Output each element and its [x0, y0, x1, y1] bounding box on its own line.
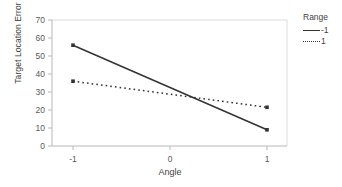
chart-container: Target Location Error 70 60 50 40 30 20 …	[0, 0, 342, 187]
legend-swatch-solid-line-icon	[303, 26, 320, 35]
legend: Range -1 1	[303, 12, 342, 47]
legend-title: Range	[303, 12, 342, 22]
plot-area	[0, 0, 342, 187]
series-line-dotted	[73, 81, 267, 107]
legend-label-dotted: 1	[320, 37, 326, 46]
series-solid-marker-1	[265, 128, 269, 132]
legend-label-solid: -1	[320, 26, 329, 35]
legend-item-dotted[interactable]: 1	[303, 36, 342, 47]
legend-swatch-dotted-line-icon	[303, 37, 320, 46]
series-line-solid	[73, 45, 267, 130]
series-dotted-marker-1	[265, 106, 269, 110]
series-dotted-marker-neg1	[71, 79, 75, 83]
legend-item-solid[interactable]: -1	[303, 25, 342, 36]
series-solid-marker-neg1	[71, 43, 75, 47]
